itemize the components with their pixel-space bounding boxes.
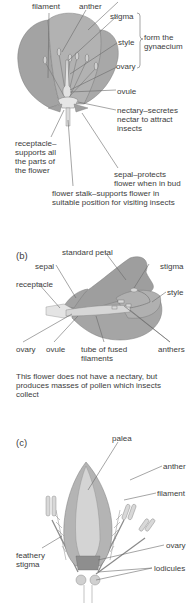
insect-pollinated-flower <box>18 13 118 126</box>
label-standard-petal: standard petal <box>62 248 113 257</box>
label-palea: palea <box>112 434 132 443</box>
label-ovule-b: ovule <box>46 345 65 354</box>
label-ovary-b: ovary <box>16 345 36 354</box>
stalk-c <box>84 585 92 603</box>
lodicule-left <box>76 575 86 585</box>
label-anther-c: anther <box>163 462 186 471</box>
label-filament-c: filament <box>157 489 185 498</box>
lodicule-right <box>90 575 100 585</box>
figure-a-drawing <box>0 0 193 614</box>
label-ovule-a: ovule <box>117 87 136 96</box>
panel-label-b: (b) <box>16 250 28 261</box>
label-filament-a: filament <box>32 2 60 11</box>
grass-flower <box>46 462 156 603</box>
sepal-right <box>74 104 88 112</box>
label-lodicules: lodicules <box>154 564 185 573</box>
label-receptacle-b: receptacle <box>16 280 53 289</box>
label-stigma-b: stigma <box>160 262 184 271</box>
label-tube-fused-filaments: tube of fused filaments <box>81 345 127 363</box>
label-ovary-c: ovary <box>166 541 186 550</box>
label-flower-stalk: flower stalk–supports flower in suitable… <box>52 189 175 207</box>
label-anthers-b: anthers <box>158 345 185 354</box>
label-nectary: nectary–secretes nectar to attract insec… <box>117 106 178 133</box>
label-receptacle-a: receptacle– supports all the parts of th… <box>15 139 56 175</box>
ovary-c <box>76 556 100 570</box>
panel-label-c: (c) <box>16 437 27 448</box>
label-style-a: style <box>118 38 134 47</box>
label-feathery-stigma: feathery stigma <box>16 551 45 569</box>
label-sepal-b: sepal <box>35 262 54 271</box>
pea-flower <box>46 257 162 340</box>
caption-b: This flower does not have a nectary, but… <box>16 372 161 399</box>
label-style-b: style <box>167 288 183 297</box>
label-sepal-a: sepal–protects flower when in bud <box>114 170 181 188</box>
label-ovary-a: ovary <box>116 62 136 71</box>
label-gynaecium-bracket: form the gynaecium <box>144 33 183 51</box>
stigma-b <box>131 288 138 292</box>
label-anther-a: anther <box>79 2 102 11</box>
label-stigma-a: stigma <box>110 12 134 21</box>
